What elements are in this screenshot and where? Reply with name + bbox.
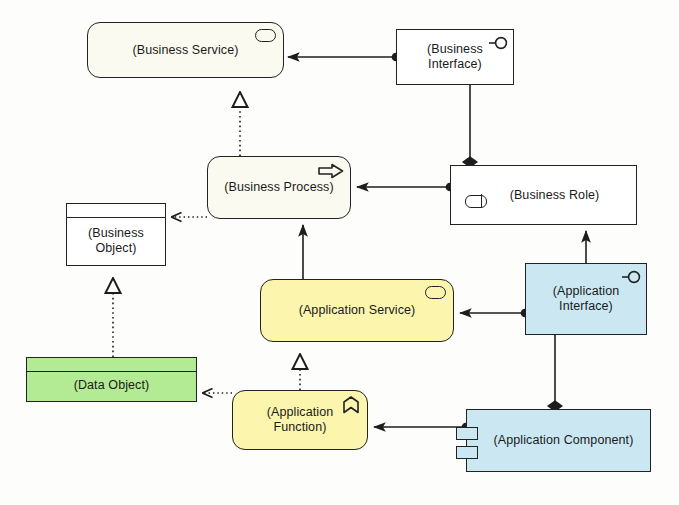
archimate-diagram: (Business Service) (Business Interface) … xyxy=(0,0,679,505)
object-divider xyxy=(27,371,196,372)
chevron-up-icon xyxy=(342,396,360,414)
node-data-object[interactable]: (Data Object) xyxy=(26,357,197,402)
role-icon xyxy=(465,195,487,208)
node-application-interface[interactable]: (Application Interface) xyxy=(525,263,647,335)
node-business-object[interactable]: (Business Object) xyxy=(66,203,166,266)
arrow-icon xyxy=(318,163,344,179)
lollipop-icon xyxy=(485,34,509,50)
component-tabs-icon xyxy=(456,446,478,459)
oval-icon xyxy=(255,29,276,42)
node-business-process[interactable]: (Business Process) xyxy=(207,156,351,219)
node-application-component[interactable]: (Application Component) xyxy=(466,409,651,472)
oval-icon xyxy=(425,286,446,299)
node-label: (Business Role) xyxy=(494,188,616,203)
page-bottom-margin xyxy=(0,487,679,505)
lollipop-icon xyxy=(618,268,642,284)
node-label: (Business Process) xyxy=(208,180,349,195)
node-label: (Application Function) xyxy=(251,405,350,435)
node-label: (Application Service) xyxy=(283,303,432,318)
node-label: (Application Interface) xyxy=(537,284,636,314)
component-tabs-icon xyxy=(456,427,478,440)
node-application-function[interactable]: (Application Function) xyxy=(232,390,368,450)
object-divider xyxy=(67,217,165,218)
node-business-role[interactable]: (Business Role) xyxy=(450,165,637,225)
node-label: (Application Component) xyxy=(468,433,650,448)
node-application-service[interactable]: (Application Service) xyxy=(260,279,454,342)
node-business-service[interactable]: (Business Service) xyxy=(87,22,284,78)
node-business-interface[interactable]: (Business Interface) xyxy=(396,29,514,85)
node-label: (Business Service) xyxy=(117,43,255,58)
node-label: (Business Object) xyxy=(72,214,160,256)
